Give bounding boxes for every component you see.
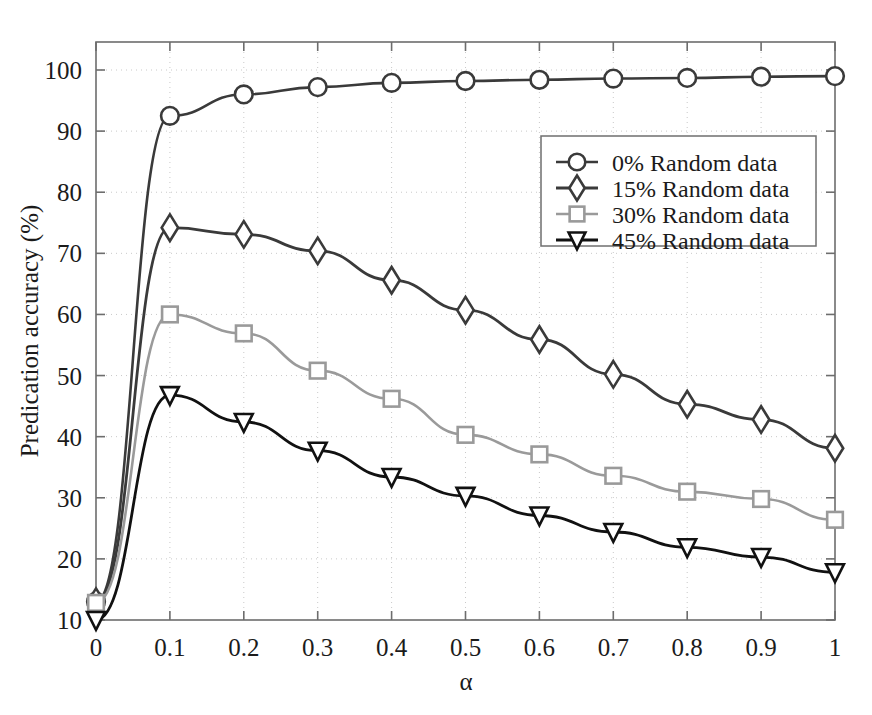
line-chart: 102030405060708090100 00.10.20.30.40.50.…: [0, 0, 872, 715]
x-tick-label: 0.1: [154, 634, 185, 661]
y-tick-label: 100: [45, 57, 83, 84]
x-tick-label: 0.8: [672, 634, 703, 661]
data-marker-diamond: [827, 435, 843, 462]
grid-layer: [96, 42, 835, 620]
x-tick-label: 0.3: [302, 634, 333, 661]
legend-label: 30% Random data: [612, 202, 790, 228]
data-marker-circle: [604, 70, 622, 88]
data-marker-circle: [457, 72, 475, 90]
data-marker-square: [827, 512, 843, 528]
y-tick-label: 80: [57, 179, 82, 206]
data-marker-circle: [383, 74, 401, 92]
data-marker-square: [310, 363, 326, 379]
data-marker-diamond: [605, 361, 621, 388]
y-tick-label: 90: [57, 118, 82, 145]
tick-marks: [96, 42, 835, 620]
y-tick-label: 50: [57, 363, 82, 390]
data-marker-circle: [531, 71, 549, 89]
data-marker-square: [162, 307, 178, 323]
data-marker-triangle-down: [87, 612, 105, 630]
data-marker-diamond: [679, 391, 695, 418]
data-marker-square: [384, 391, 400, 407]
x-tick-label: 0.6: [524, 634, 555, 661]
data-marker-circle: [678, 69, 696, 87]
y-axis-tick-labels: 102030405060708090100: [45, 57, 83, 634]
data-marker-diamond: [531, 326, 547, 353]
data-marker-square: [570, 207, 585, 222]
y-tick-label: 30: [57, 485, 82, 512]
y-tick-label: 10: [57, 607, 82, 634]
data-marker-square: [236, 326, 252, 342]
y-tick-label: 70: [57, 240, 82, 267]
data-marker-diamond: [383, 267, 399, 294]
y-tick-label: 40: [57, 424, 82, 451]
data-marker-square: [532, 447, 548, 463]
x-tick-label: 0.4: [376, 634, 408, 661]
data-marker-diamond: [457, 297, 473, 324]
x-axis-title: α: [459, 668, 472, 695]
figure-canvas: 102030405060708090100 00.10.20.30.40.50.…: [0, 0, 872, 715]
data-marker-circle: [752, 68, 770, 86]
legend-label: 45% Random data: [612, 228, 790, 254]
data-marker-square: [88, 595, 104, 611]
data-marker-diamond: [309, 238, 325, 265]
x-tick-label: 0.2: [228, 634, 259, 661]
x-tick-label: 0.7: [598, 634, 629, 661]
data-marker-circle: [161, 107, 179, 125]
data-marker-circle: [569, 154, 586, 171]
data-series: [87, 387, 844, 630]
data-marker-square: [605, 468, 621, 484]
data-marker-diamond: [236, 221, 252, 248]
data-marker-circle: [235, 86, 253, 104]
x-tick-label: 0.5: [450, 634, 481, 661]
data-marker-square: [679, 484, 695, 500]
x-tick-label: 1: [829, 634, 842, 661]
x-tick-label: 0.9: [745, 634, 776, 661]
data-marker-diamond: [753, 406, 769, 433]
legend-label: 0% Random data: [612, 150, 778, 176]
data-marker-circle: [309, 78, 327, 96]
data-marker-circle: [826, 67, 844, 85]
y-axis-title: Predication accuracy (%): [16, 205, 44, 458]
x-tick-label: 0: [90, 634, 103, 661]
plot-frame: [96, 42, 835, 620]
series-line: [96, 228, 835, 602]
legend-label: 15% Random data: [612, 176, 790, 202]
data-marker-square: [753, 491, 769, 507]
y-tick-label: 60: [57, 301, 82, 328]
data-marker-square: [458, 427, 474, 443]
chart-legend[interactable]: 0% Random data15% Random data30% Random …: [541, 136, 816, 254]
x-axis-tick-labels: 00.10.20.30.40.50.60.70.80.91: [90, 634, 842, 661]
data-marker-diamond: [162, 214, 178, 241]
y-tick-label: 20: [57, 546, 82, 573]
